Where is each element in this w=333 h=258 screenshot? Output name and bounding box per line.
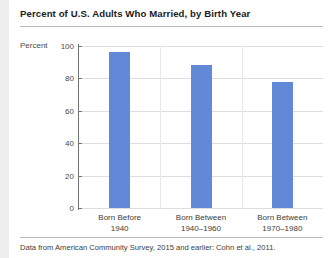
bar <box>191 65 212 208</box>
bar <box>272 82 293 208</box>
source-note: Data from American Community Survey, 201… <box>20 243 325 252</box>
y-tick-mark <box>78 111 82 112</box>
plot-area <box>79 46 323 208</box>
y-tick-label: 40 <box>52 139 74 148</box>
bar <box>109 52 130 208</box>
y-tick-mark <box>78 176 82 177</box>
x-category-line-1: Born Between <box>242 213 323 224</box>
y-tick-label: 60 <box>52 106 74 115</box>
y-tick-mark <box>78 208 82 209</box>
x-category-line-2: 1970–1980 <box>242 224 323 235</box>
footnote-divider <box>20 237 323 238</box>
y-axis-title: Percent <box>20 41 48 50</box>
gridline <box>79 46 323 47</box>
y-tick-mark <box>78 46 82 47</box>
y-tick-label: 80 <box>52 74 74 83</box>
page-gutter <box>0 0 9 258</box>
x-category-line-1: Born Before <box>79 213 160 224</box>
x-category-line-2: 1940 <box>79 224 160 235</box>
chart-title: Percent of U.S. Adults Who Married, by B… <box>20 8 320 19</box>
y-tick-label: 0 <box>52 204 74 213</box>
category-divider <box>160 46 161 208</box>
title-divider <box>20 26 323 27</box>
chart-figure: Percent of U.S. Adults Who Married, by B… <box>0 0 333 258</box>
x-category-label: Born Between1970–1980 <box>242 213 323 234</box>
y-tick-mark <box>78 143 82 144</box>
y-tick-label: 20 <box>52 171 74 180</box>
x-category-line-1: Born Between <box>160 213 241 224</box>
y-tick-mark <box>78 78 82 79</box>
x-category-label: Born Between1940–1960 <box>160 213 241 234</box>
gridline <box>79 208 323 209</box>
category-divider <box>242 46 243 208</box>
y-tick-label: 100 <box>52 42 74 51</box>
x-category-line-2: 1940–1960 <box>160 224 241 235</box>
x-category-label: Born Before1940 <box>79 213 160 234</box>
